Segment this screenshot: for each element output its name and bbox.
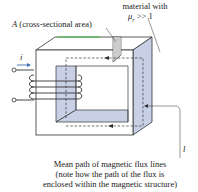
core-right-side-face bbox=[133, 37, 152, 135]
current-arrow-head bbox=[27, 63, 31, 67]
length-label: l bbox=[183, 145, 185, 154]
core-top-face bbox=[36, 37, 152, 50]
material-label-mu: μr >> 1 bbox=[128, 12, 153, 25]
current-label: i bbox=[20, 53, 22, 62]
terminal-bottom bbox=[12, 98, 16, 102]
material-label-line1: material with bbox=[110, 2, 180, 11]
area-label: A (cross-sectional area) bbox=[12, 20, 92, 29]
terminal-top bbox=[12, 68, 16, 72]
caption-line1: Mean path of magnetic flux lines bbox=[40, 160, 180, 169]
caption-line3: enclosed within the magnetic structure) bbox=[30, 180, 190, 189]
caption-line2: (note how the path of the flux is bbox=[40, 170, 180, 179]
